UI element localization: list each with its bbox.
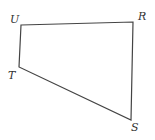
- vertex-label-t: T: [8, 69, 17, 82]
- quadrilateral-URST: [19, 22, 133, 120]
- vertex-label-u: U: [10, 13, 20, 26]
- vertex-label-s: S: [131, 121, 139, 134]
- quadrilateral-diagram: U R S T: [0, 0, 155, 140]
- vertex-label-r: R: [137, 10, 146, 23]
